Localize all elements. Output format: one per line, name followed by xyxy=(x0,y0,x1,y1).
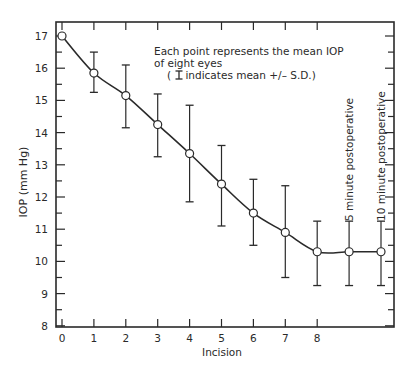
y-tick-label: 17 xyxy=(35,30,48,42)
y-tick-label: 16 xyxy=(35,62,49,74)
data-point xyxy=(377,248,385,256)
y-axis-label: IOP (mm Hg) xyxy=(17,147,30,218)
data-point xyxy=(218,180,226,188)
note-paren: ( xyxy=(167,69,174,81)
x-axis-label: Incision xyxy=(202,346,242,358)
x-tick-label: 3 xyxy=(154,332,161,344)
x-tick-label: 4 xyxy=(186,332,193,344)
data-point xyxy=(154,121,162,129)
y-tick-label: 8 xyxy=(41,320,48,332)
y-tick-label: 13 xyxy=(35,159,48,171)
y-tick-label: 15 xyxy=(35,94,48,106)
x-tick-label: 7 xyxy=(282,332,289,344)
data-point xyxy=(281,228,289,236)
note-line-2: of eight eyes xyxy=(154,57,222,69)
error-bars xyxy=(90,52,385,285)
iop-chart: 891011121314151617 012345678 IOP (mm Hg)… xyxy=(0,0,415,372)
x-tick-label: 1 xyxy=(91,332,98,344)
error-bar-legend-icon xyxy=(176,71,183,79)
data-point xyxy=(249,209,257,217)
y-tick-label: 12 xyxy=(35,191,48,203)
note-line-1: Each point represents the mean IOP xyxy=(154,45,344,57)
data-point xyxy=(186,150,194,158)
data-point xyxy=(122,92,130,100)
y-tick-label: 9 xyxy=(41,288,48,300)
label-10-minute-postoperative: 10 minute postoperative xyxy=(375,91,387,221)
data-point xyxy=(345,248,353,256)
x-tick-label: 8 xyxy=(314,332,321,344)
label-5-minute-postoperative: 5 minute postoperative xyxy=(343,98,355,221)
y-tick-label: 11 xyxy=(35,223,48,235)
y-tick-label: 14 xyxy=(35,127,49,139)
y-tick-label: 10 xyxy=(35,255,48,267)
note-line-3: ( indicates mean +/– S.D.) xyxy=(167,69,316,81)
data-point xyxy=(313,248,321,256)
x-tick-label: 0 xyxy=(59,332,66,344)
x-tick-label: 6 xyxy=(250,332,257,344)
data-point xyxy=(58,32,66,40)
note-sd: indicates mean +/– S.D.) xyxy=(185,69,315,81)
x-tick-label: 2 xyxy=(122,332,129,344)
x-tick-label: 5 xyxy=(218,332,225,344)
data-point xyxy=(90,69,98,77)
annotation-note: Each point represents the mean IOP of ei… xyxy=(154,45,344,81)
